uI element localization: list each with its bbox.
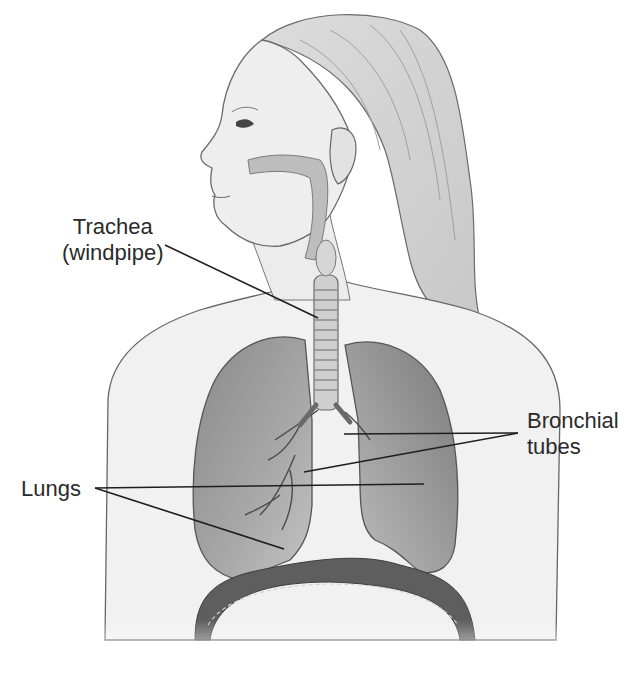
- trachea-label-line1: Trachea: [62, 214, 164, 240]
- ear: [330, 128, 356, 184]
- lungs-label-text: Lungs: [21, 476, 81, 501]
- trachea-label-line2: (windpipe): [62, 240, 164, 266]
- trachea-label: Trachea (windpipe): [62, 214, 164, 266]
- respiratory-system-illustration: [0, 0, 636, 673]
- bronchial-tubes-label: Bronchial tubes: [527, 408, 619, 460]
- bronchial-label-line1: Bronchial: [527, 408, 619, 434]
- lungs-label: Lungs: [21, 476, 81, 502]
- bronchial-label-line2: tubes: [527, 434, 619, 460]
- bronchial-leader-line-1: [344, 433, 518, 434]
